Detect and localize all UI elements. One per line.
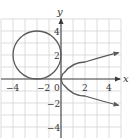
x-axis-label: x [123,73,129,84]
x-tick-label-4: 4 [106,83,112,93]
x-tick-label-2: 2 [82,83,88,93]
y-tick-label-2: 2 [54,51,60,61]
x-tick-label-neg2: −2 [37,83,50,93]
y-axis-label: y [56,6,63,17]
y-tick-label-neg4: −4 [47,123,61,133]
origin-label: 0 [54,83,60,93]
y-tick-label-4: 4 [54,27,60,37]
x-tick-label-neg4: −4 [6,83,20,93]
graph: −4 −2 0 2 4 4 2 −2 −4 x y [0,0,130,138]
parabola-upper-branch [61,53,119,79]
y-tick-label-neg2: −2 [47,99,60,109]
